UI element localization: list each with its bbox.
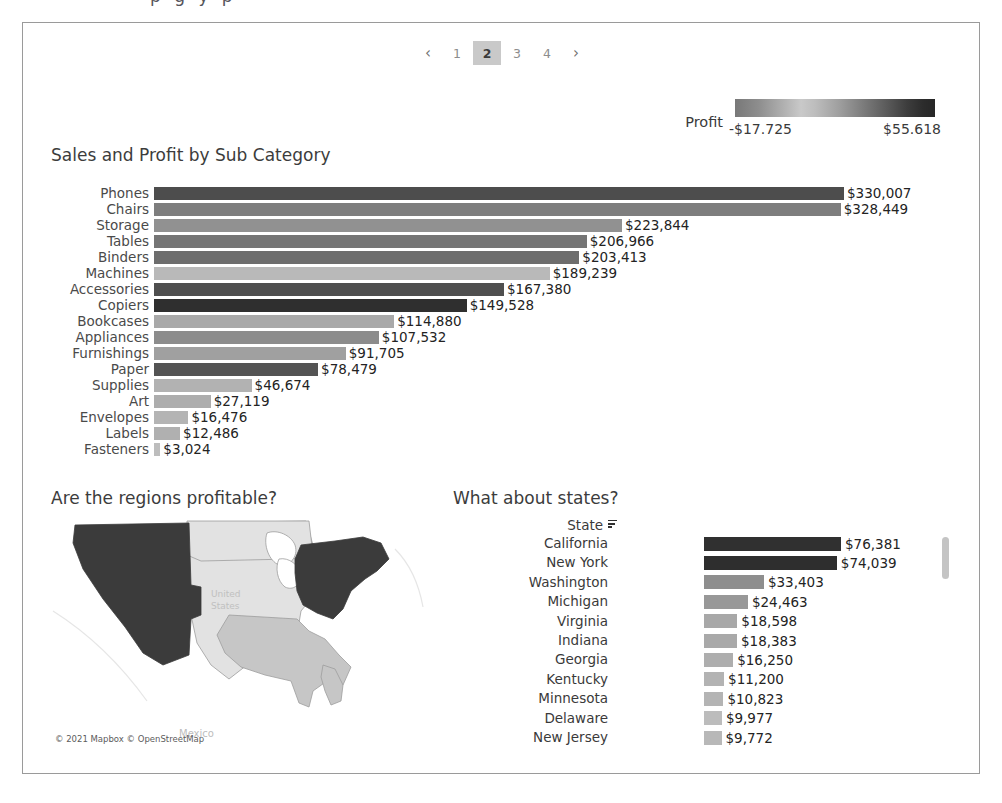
subcategory-bar-chart: Phones$330,007Chairs$328,449Storage$223,…: [23, 185, 981, 457]
state-bar-value: $18,598: [741, 613, 797, 629]
state-label: Kentucky: [453, 670, 614, 689]
subcategory-bar-row: Labels$12,486: [23, 425, 981, 441]
state-bar-fill[interactable]: [704, 731, 722, 745]
subcategory-bar-fill[interactable]: [154, 251, 579, 264]
subcategory-bar-fill[interactable]: [154, 203, 841, 216]
subcategory-bar-fill[interactable]: [154, 187, 844, 200]
subcategory-bar-track: $78,479: [154, 361, 981, 377]
subcategory-bar-fill[interactable]: [154, 315, 394, 328]
state-bar-fill[interactable]: [704, 595, 748, 609]
subcategory-bar-fill[interactable]: [154, 427, 180, 440]
state-bar-fill[interactable]: [704, 556, 837, 570]
subcategory-bar-label: Art: [23, 393, 154, 409]
state-bar-fill[interactable]: [704, 575, 764, 589]
subcategory-bar-track: $189,239: [154, 265, 981, 281]
scrollbar-thumb[interactable]: [942, 537, 949, 579]
subcategory-bar-label: Tables: [23, 233, 154, 249]
subcategory-bar-value: $16,476: [191, 409, 247, 425]
subcategory-bar-fill[interactable]: [154, 283, 504, 296]
state-row: Kentucky$11,200: [453, 670, 953, 689]
subcategory-bar-row: Appliances$107,532: [23, 329, 981, 345]
subcategory-bar-row: Copiers$149,528: [23, 297, 981, 313]
state-bar-fill[interactable]: [704, 653, 733, 667]
state-bar-fill[interactable]: [704, 692, 723, 706]
pagination-page-4[interactable]: 4: [533, 41, 561, 65]
chevron-right-icon[interactable]: ›: [563, 41, 589, 65]
subcategory-bar-fill[interactable]: [154, 267, 550, 280]
subcategory-bar-fill[interactable]: [154, 299, 467, 312]
subcategory-bar-fill[interactable]: [154, 411, 188, 424]
page-top-cutoff-text: p g y p: [0, 0, 1002, 14]
state-bar-track: $9,977: [704, 710, 953, 726]
state-bar-fill[interactable]: [704, 711, 722, 725]
state-label: Michigan: [453, 592, 614, 611]
subcategory-bar-fill[interactable]: [154, 363, 318, 376]
subcategory-bar-fill[interactable]: [154, 347, 346, 360]
subcategory-bar-label: Accessories: [23, 281, 154, 297]
state-bar-value: $24,463: [752, 594, 808, 610]
subcategory-bar-label: Appliances: [23, 329, 154, 345]
state-bar-track: $16,250: [704, 652, 953, 668]
subcategory-bar-label: Supplies: [23, 377, 154, 393]
sort-descending-icon[interactable]: [608, 520, 617, 530]
pagination-page-1[interactable]: 1: [443, 41, 471, 65]
profit-legend-min: -$17.725: [729, 121, 792, 137]
state-label: New Jersey: [453, 728, 614, 747]
regions-choropleth-map[interactable]: United States Mexico © 2021 Mapbox © Ope…: [51, 515, 431, 747]
subcategory-bar-fill[interactable]: [154, 379, 252, 392]
subcategory-bar-value: $330,007: [847, 185, 911, 201]
subcategory-bar-label: Furnishings: [23, 345, 154, 361]
subcategory-bar-track: $91,705: [154, 345, 981, 361]
states-chart-title: What about states?: [453, 488, 618, 508]
subcategory-bar-row: Tables$206,966: [23, 233, 981, 249]
subcategory-bar-fill[interactable]: [154, 331, 379, 344]
subcategory-bar-row: Supplies$46,674: [23, 377, 981, 393]
state-row: New York$74,039: [453, 553, 953, 572]
pagination-page-3[interactable]: 3: [503, 41, 531, 65]
state-label: Georgia: [453, 650, 614, 669]
subcategory-bar-row: Phones$330,007: [23, 185, 981, 201]
subcategory-bar-track: $107,532: [154, 329, 981, 345]
subcategory-bar-value: $223,844: [625, 217, 689, 233]
state-bar-track: $11,200: [704, 671, 953, 687]
subcategory-bar-track: $167,380: [154, 281, 981, 297]
state-row: Georgia$16,250: [453, 650, 953, 669]
subcategory-bar-value: $149,528: [470, 297, 534, 313]
profit-legend: Profit -$17.725 $55.618: [685, 99, 941, 137]
subcategory-bar-track: $3,024: [154, 441, 981, 457]
state-row: Virginia$18,598: [453, 612, 953, 631]
us-regions-map-svg: United States Mexico: [51, 515, 431, 747]
state-bar-fill[interactable]: [704, 672, 724, 686]
chevron-left-icon[interactable]: ‹: [415, 41, 441, 65]
subcategory-bar-track: $206,966: [154, 233, 981, 249]
subcategory-bar-value: $206,966: [590, 233, 654, 249]
regions-map-title: Are the regions profitable?: [51, 488, 277, 508]
state-bar-fill[interactable]: [704, 614, 737, 628]
map-attribution: © 2021 Mapbox © OpenStreetMap: [55, 734, 204, 744]
subcategory-bar-row: Fasteners$3,024: [23, 441, 981, 457]
subcategory-bar-row: Paper$78,479: [23, 361, 981, 377]
state-label: Delaware: [453, 709, 614, 728]
subcategory-bar-row: Art$27,119: [23, 393, 981, 409]
state-bar-fill[interactable]: [704, 634, 737, 648]
subcategory-bar-label: Paper: [23, 361, 154, 377]
state-column-header: State: [453, 517, 607, 533]
subcategory-bar-fill[interactable]: [154, 443, 160, 456]
subcategory-bar-value: $27,119: [214, 393, 270, 409]
profit-color-ramp[interactable]: [735, 99, 935, 117]
states-vertical-scrollbar[interactable]: [942, 537, 949, 742]
subcategory-bar-track: $203,413: [154, 249, 981, 265]
state-bar-value: $10,823: [727, 691, 783, 707]
subcategory-bar-fill[interactable]: [154, 395, 211, 408]
subcategory-bar-value: $107,532: [382, 329, 446, 345]
state-label: New York: [453, 553, 614, 572]
subcategory-bar-value: $12,486: [183, 425, 239, 441]
subcategory-bar-fill[interactable]: [154, 235, 587, 248]
dashboard-container: ‹ 1 2 3 4 › Profit -$17.725 $55.618 Sale…: [22, 22, 980, 774]
state-bar-fill[interactable]: [704, 537, 841, 551]
subcategory-bar-fill[interactable]: [154, 219, 622, 232]
subcategory-bar-track: $223,844: [154, 217, 981, 233]
pagination-page-2[interactable]: 2: [473, 41, 501, 65]
state-bar-track: $33,403: [704, 574, 953, 590]
subcategory-bar-label: Bookcases: [23, 313, 154, 329]
